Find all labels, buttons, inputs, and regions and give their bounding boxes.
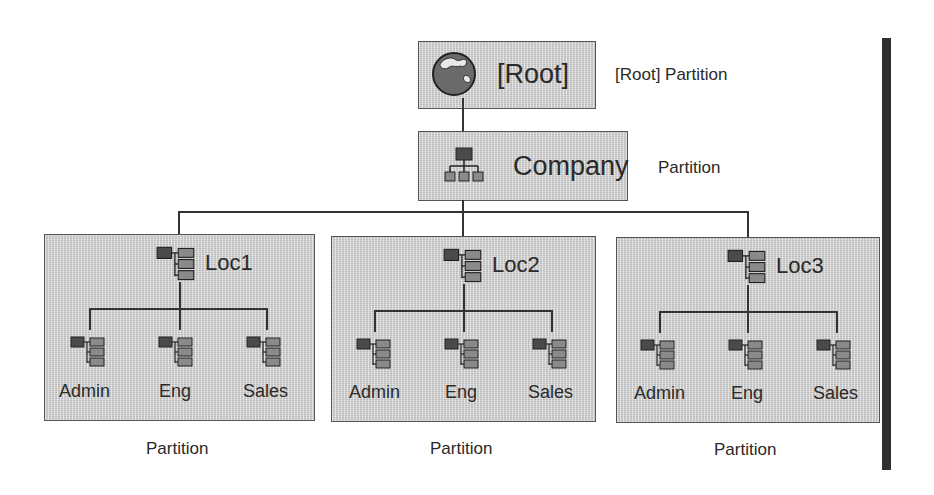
organizational-unit-icon <box>158 336 194 368</box>
location-node-loc1: Loc1 Admin Eng Sales <box>44 234 315 421</box>
connector-child-sales <box>836 311 838 333</box>
child-label-eng: Eng <box>159 381 191 402</box>
connector-loc-down <box>747 285 749 312</box>
child-label-eng: Eng <box>445 382 477 403</box>
location-label: Loc3 <box>776 253 824 279</box>
child-label-admin: Admin <box>59 381 110 402</box>
organizational-unit-icon <box>816 339 852 371</box>
location-node-loc3: Loc3 Admin Eng Sales <box>616 237 880 423</box>
connector-child-admin <box>89 308 91 330</box>
connector-child-admin <box>659 311 661 333</box>
connector-child-admin <box>374 310 376 332</box>
organization-icon <box>444 146 484 186</box>
location-node-loc2: Loc2 Admin Eng Sales <box>331 236 596 422</box>
organizational-unit-icon <box>727 249 767 285</box>
root-label: [Root] <box>497 59 569 90</box>
connector-child-sales <box>551 310 553 332</box>
organizational-unit-icon <box>640 339 676 371</box>
root-node: [Root] <box>418 41 596 109</box>
vertical-divider-bar <box>882 38 891 470</box>
connector-child-eng <box>747 311 749 333</box>
company-partition-caption: Partition <box>658 158 720 178</box>
organizational-unit-icon <box>443 248 483 284</box>
loc3-partition-caption: Partition <box>714 440 776 460</box>
connector-root-company <box>462 98 464 133</box>
connector-loc1-up <box>178 211 180 235</box>
company-node: Company <box>418 131 628 201</box>
organizational-unit-icon <box>70 336 106 368</box>
root-partition-caption: [Root] Partition <box>615 65 727 85</box>
loc1-partition-caption: Partition <box>146 439 208 459</box>
organizational-unit-icon <box>246 336 282 368</box>
loc2-partition-caption: Partition <box>430 439 492 459</box>
organizational-unit-icon <box>532 338 568 370</box>
company-label: Company <box>513 151 629 182</box>
child-label-admin: Admin <box>349 382 400 403</box>
organizational-unit-icon <box>728 339 764 371</box>
connector-loc-down <box>179 282 181 309</box>
connector-children-horizontal <box>89 308 267 310</box>
connector-child-eng <box>463 310 465 332</box>
location-label: Loc2 <box>492 252 540 278</box>
location-label: Loc1 <box>205 250 253 276</box>
connector-child-sales <box>266 308 268 330</box>
child-label-admin: Admin <box>634 383 685 404</box>
child-label-sales: Sales <box>243 381 288 402</box>
organizational-unit-icon <box>156 246 196 282</box>
child-label-eng: Eng <box>731 383 763 404</box>
connector-loc3-up <box>747 211 749 238</box>
globe-icon <box>430 50 478 98</box>
connector-child-eng <box>179 308 181 330</box>
organizational-unit-icon <box>356 338 392 370</box>
organizational-unit-icon <box>444 338 480 370</box>
child-label-sales: Sales <box>813 383 858 404</box>
connector-loc-down <box>463 284 465 311</box>
child-label-sales: Sales <box>528 382 573 403</box>
connector-loc2-up <box>462 211 464 237</box>
